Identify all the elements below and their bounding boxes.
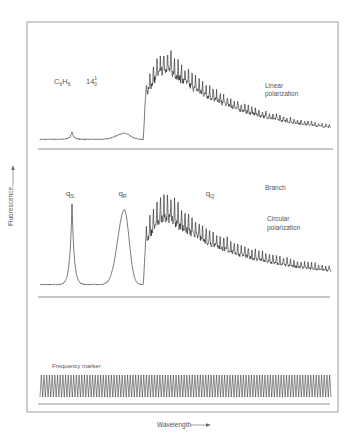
svg-text:1410: 1410 bbox=[86, 75, 97, 87]
molecule-label: C6H6 bbox=[54, 77, 71, 87]
x-axis-label-text: Wavelength bbox=[157, 421, 191, 429]
panel-label-linear-1: Linear bbox=[265, 82, 284, 89]
x-axis-label: Wavelength bbox=[157, 421, 211, 429]
svg-text:C6H6: C6H6 bbox=[54, 77, 71, 87]
y-axis-label: Fluorescence bbox=[7, 165, 15, 226]
panel-label-linear-2: polarization bbox=[265, 90, 299, 98]
panel-label-marker: Frequency marker bbox=[52, 363, 101, 369]
trace-frequency-marker bbox=[40, 375, 331, 397]
y-axis-label-text: Fluorescence bbox=[7, 187, 14, 226]
spectrum-figure: Fluorescence C6H6 1410 Linear polarizati… bbox=[0, 0, 353, 443]
panel-label-circular-2: polarization bbox=[267, 224, 301, 232]
branch-marker-q: qQ bbox=[206, 189, 215, 199]
transition-label: 1410 bbox=[86, 75, 97, 87]
y-axis-arrow-icon bbox=[11, 165, 14, 170]
branch-marker-r: qR bbox=[118, 189, 126, 199]
branch-marker-s: qS bbox=[66, 189, 74, 199]
panel-label-circular-1: Circular bbox=[267, 215, 290, 222]
branch-label: Branch bbox=[265, 184, 286, 191]
trace-circular-polarization bbox=[40, 195, 331, 285]
x-axis-arrow-icon bbox=[206, 423, 211, 426]
branch-markers: qSqRqQ bbox=[66, 189, 215, 199]
